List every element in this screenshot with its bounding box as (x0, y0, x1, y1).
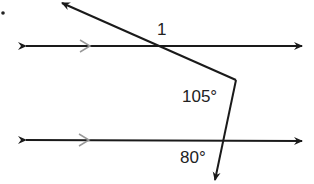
angle-1-label: 1 (157, 21, 166, 38)
transversal-upper (62, 3, 236, 80)
parallel-line-bottom (26, 140, 302, 141)
angle-105-label: 105° (182, 88, 217, 105)
transversal-lower (215, 80, 236, 180)
bullet-dot (1, 11, 5, 15)
angle-80-label: 80° (180, 149, 206, 166)
